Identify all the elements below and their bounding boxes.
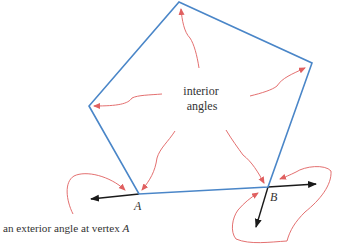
interior-angle-arrow-top [181,9,199,68]
interior-label-line1: interior [183,84,218,98]
pentagon-exterior-angle-diagram: interior angles A B an exterior angle at… [0,0,337,249]
caption-vertex: A [122,222,130,234]
vertex-a-label: A [133,199,142,213]
exterior-angle-arrow-b-upper [280,167,331,179]
side-extension-at-a-arrow [91,194,139,199]
interior-angle-arrow-a [142,131,175,190]
interior-angle-arrow-right [250,68,305,96]
caption-prefix: an exterior angle at vertex [3,222,123,234]
interior-angle-arrow-left [94,94,162,106]
exterior-angle-caption: an exterior angle at vertex A [3,222,130,234]
interior-label-line2: angles [187,99,218,113]
exterior-angle-arrow-a [67,174,125,214]
vertex-b-label: B [270,190,278,204]
side-extension-at-b-arrow [268,184,316,187]
pentagon [89,2,312,194]
exterior-angle-boundary-b [232,171,331,243]
interior-angle-arrow-b [226,130,264,183]
